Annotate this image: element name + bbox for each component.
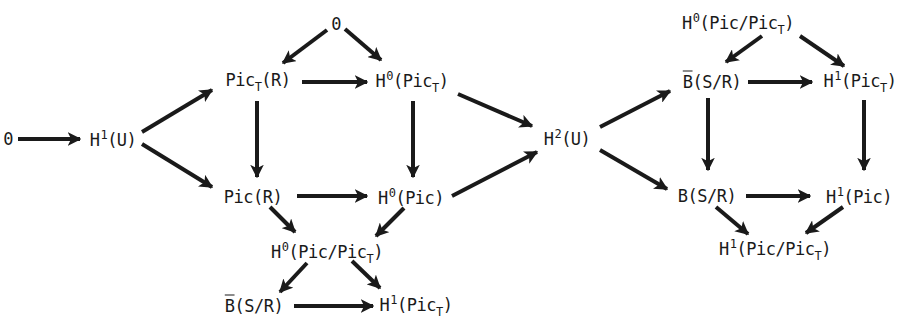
arrow-zero-top-to-pict-r bbox=[283, 30, 327, 63]
node-bbar-sr-bot: B(S/R) bbox=[225, 298, 283, 315]
node-sub: T bbox=[255, 80, 262, 94]
node-post: (U) bbox=[107, 130, 136, 150]
arrow-h0-picquot-mid-to-bbar-sr-bot bbox=[280, 263, 307, 292]
arrow-h1-pic-to-h1-picquot bbox=[806, 207, 843, 233]
node-base: 0 bbox=[331, 14, 341, 34]
node-h1-u: H1(U) bbox=[90, 129, 137, 149]
node-b-sr: B(S/R) bbox=[678, 188, 736, 205]
node-post: (Pic bbox=[397, 295, 436, 315]
node-base: H bbox=[380, 295, 390, 315]
node-post-end: ) bbox=[784, 13, 794, 33]
node-base: H bbox=[824, 71, 834, 91]
arrow-pic-r-to-h0-picquot-mid bbox=[270, 207, 295, 232]
arrow-h0-picquot-top-to-h1-pict-top bbox=[800, 36, 844, 66]
node-post: (Pic bbox=[841, 71, 880, 91]
arrow-h0-pict-to-h2-u bbox=[458, 94, 532, 126]
node-base: 0 bbox=[3, 129, 13, 149]
commutative-diagram: 0H1(U)0PicT(R)H0(PicT)Pic(R)H0(Pic)H2(U)… bbox=[0, 0, 904, 335]
node-post: (Pic bbox=[393, 71, 432, 91]
node-post: (Pic/Pic bbox=[737, 239, 815, 259]
node-base: H bbox=[682, 13, 692, 33]
node-post: (Pic/Pic bbox=[700, 13, 778, 33]
node-base: H bbox=[544, 129, 554, 149]
node-post: (U) bbox=[561, 129, 590, 149]
arrow-b-sr-to-h1-picquot bbox=[716, 207, 748, 234]
node-post: (S/R) bbox=[688, 186, 737, 206]
arrow-h2-u-to-b-sr bbox=[600, 150, 667, 189]
node-base: B bbox=[678, 186, 688, 206]
node-post-end: ) bbox=[887, 71, 897, 91]
arrow-h0-pic-to-h0-picquot-mid bbox=[376, 208, 404, 236]
node-base: H bbox=[826, 187, 836, 207]
node-base: Pic bbox=[225, 70, 254, 90]
node-post-end: ) bbox=[443, 295, 453, 315]
node-h1-pict-top: H1(PicT) bbox=[824, 70, 897, 94]
node-post-end: ) bbox=[821, 239, 831, 259]
node-base: H bbox=[376, 71, 386, 91]
node-post: (Pic) bbox=[843, 187, 892, 207]
node-pic-r: Pic(R) bbox=[224, 189, 282, 206]
arrow-h1-u-to-pict-r bbox=[142, 90, 212, 132]
node-h2-u: H2(U) bbox=[544, 128, 591, 148]
node-bbar-sr-top: B(S/R) bbox=[683, 74, 741, 91]
node-base: H bbox=[271, 242, 281, 262]
node-post-end: ) bbox=[439, 71, 449, 91]
node-h0-pic: H0(Pic) bbox=[378, 187, 444, 207]
arrow-h0-pic-to-h2-u bbox=[452, 152, 537, 196]
node-zero-left: 0 bbox=[3, 131, 13, 148]
node-h1-pic: H1(Pic) bbox=[826, 186, 892, 206]
arrow-layer bbox=[0, 0, 904, 335]
node-pict-r: PicT(R) bbox=[225, 72, 290, 93]
node-h1-picquot: H1(Pic/PicT) bbox=[719, 238, 831, 262]
arrow-h2-u-to-bbar-sr-top bbox=[600, 91, 670, 127]
node-zero-top: 0 bbox=[331, 16, 341, 33]
node-h1-pict-bot: H1(PicT) bbox=[380, 294, 453, 318]
node-base: B bbox=[225, 296, 235, 316]
node-h0-picquot-mid: H0(Pic/PicT) bbox=[271, 241, 383, 265]
node-base: Pic(R) bbox=[224, 187, 282, 207]
arrow-zero-top-to-h0-pict bbox=[345, 29, 381, 60]
node-post: (R) bbox=[261, 70, 290, 90]
node-h0-pict: H0(PicT) bbox=[376, 70, 449, 94]
node-post-end: ) bbox=[373, 242, 383, 262]
node-base: H bbox=[719, 239, 729, 259]
node-post: (Pic/Pic bbox=[289, 242, 367, 262]
node-base: H bbox=[90, 130, 100, 150]
node-base: B bbox=[683, 72, 693, 92]
node-post: (Pic) bbox=[395, 188, 444, 208]
arrow-h1-u-to-pic-r bbox=[142, 144, 212, 187]
arrow-h0-picquot-top-to-bbar-sr-top bbox=[726, 36, 762, 62]
node-post: (S/R) bbox=[693, 72, 742, 92]
node-base: H bbox=[378, 188, 388, 208]
node-post: (S/R) bbox=[235, 296, 284, 316]
node-h0-picquot-top: H0(Pic/PicT) bbox=[682, 12, 794, 36]
